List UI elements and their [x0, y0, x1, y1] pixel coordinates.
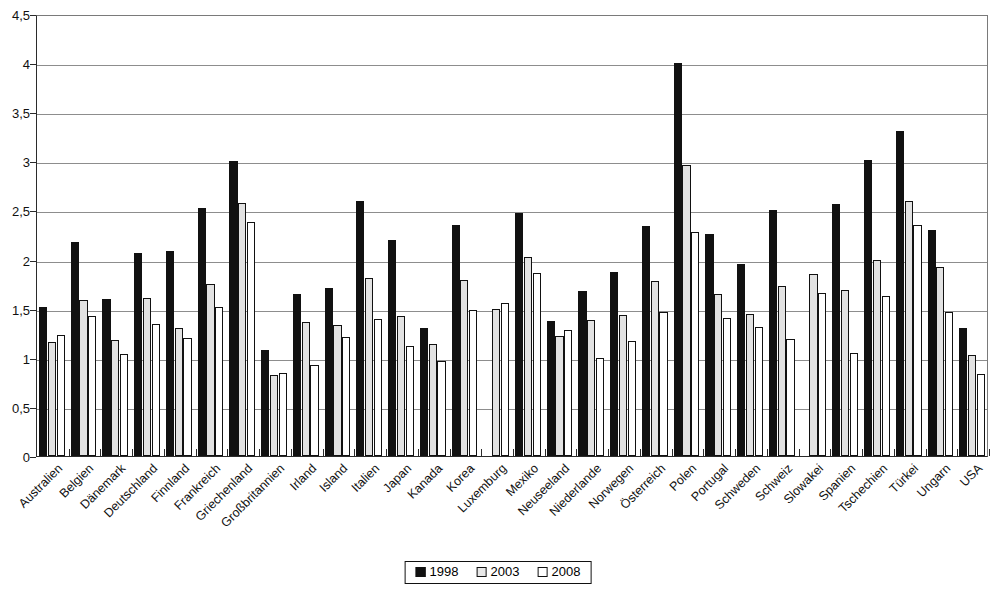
- bar: [374, 319, 382, 456]
- bar-group: [420, 16, 446, 456]
- bar-group: [483, 16, 509, 456]
- bar-group: [547, 16, 573, 456]
- bar-group: [356, 16, 382, 456]
- y-axis-tick-label: 3: [23, 156, 30, 169]
- legend-item: 1998: [416, 565, 459, 579]
- bar: [714, 294, 722, 456]
- bar: [71, 242, 79, 456]
- bar: [420, 328, 428, 456]
- y-axis-tick-label: 3,5: [12, 107, 30, 120]
- bar-group: [959, 16, 985, 456]
- y-axis-tick-label: 4,5: [12, 9, 30, 22]
- bar: [864, 160, 872, 456]
- bar-group: [102, 16, 128, 456]
- bar: [57, 335, 65, 456]
- bar: [452, 225, 460, 456]
- legend-swatch-icon: [416, 567, 426, 577]
- bar-group: [515, 16, 541, 456]
- bar-group: [293, 16, 319, 456]
- bar: [524, 257, 532, 456]
- x-axis-tick-label: Irland: [287, 462, 318, 493]
- bar: [356, 201, 364, 456]
- bar: [936, 267, 944, 456]
- bar: [705, 234, 713, 456]
- bar: [460, 280, 468, 456]
- bar: [564, 330, 572, 456]
- bar-group: [896, 16, 922, 456]
- bar: [388, 240, 396, 456]
- x-axis-labels: AustralienBelgienDänemarkDeutschlandFinn…: [0, 462, 996, 562]
- bar-group: [134, 16, 160, 456]
- legend-item: 2003: [477, 565, 520, 579]
- bar: [492, 309, 500, 456]
- bar: [578, 291, 586, 456]
- bar-group: [166, 16, 192, 456]
- bar-group: [261, 16, 287, 456]
- legend-swatch-icon: [537, 567, 547, 577]
- bar: [737, 264, 745, 456]
- bar: [515, 213, 523, 456]
- legend-label: 2003: [491, 565, 520, 579]
- bar: [723, 318, 731, 456]
- y-axis-tick-label: 1: [23, 352, 30, 365]
- bar: [437, 361, 445, 456]
- x-axis-tick-label: Australien: [16, 462, 65, 511]
- bar-group: [198, 16, 224, 456]
- plot-area: [36, 15, 988, 457]
- bar-chart: 00,511,522,533,544,5 AustralienBelgienDä…: [0, 0, 996, 592]
- x-axis-tick-label: USA: [958, 462, 985, 489]
- bar-group: [325, 16, 351, 456]
- legend-swatch-icon: [477, 567, 487, 577]
- bar: [406, 346, 414, 456]
- bar: [896, 131, 904, 456]
- bar: [397, 316, 405, 456]
- bar-group: [388, 16, 414, 456]
- bar: [39, 307, 47, 456]
- bar: [809, 274, 817, 456]
- plot-wrapper: 00,511,522,533,544,5: [0, 0, 996, 470]
- bar-group: [642, 16, 668, 456]
- bar: [166, 251, 174, 456]
- bar: [682, 165, 690, 456]
- bar: [342, 337, 350, 456]
- bar-group: [229, 16, 255, 456]
- bar-group: [864, 16, 890, 456]
- legend-label: 2008: [551, 565, 580, 579]
- bar-group: [39, 16, 65, 456]
- bar: [501, 303, 509, 456]
- y-axis-tick-label: 0,5: [12, 401, 30, 414]
- legend-label: 1998: [430, 565, 459, 579]
- bar-group: [769, 16, 795, 456]
- bar: [832, 204, 840, 456]
- bar: [547, 321, 555, 456]
- legend-item: 2008: [537, 565, 580, 579]
- y-axis-tick-label: 1,5: [12, 303, 30, 316]
- bar-group: [928, 16, 954, 456]
- bar: [674, 63, 682, 456]
- bar-group: [71, 16, 97, 456]
- bar-group: [737, 16, 763, 456]
- bar: [959, 328, 967, 456]
- y-axis-tick: [30, 457, 36, 458]
- bar: [769, 210, 777, 456]
- bar: [48, 342, 56, 456]
- bar-group: [674, 16, 700, 456]
- bar-group: [832, 16, 858, 456]
- bar: [469, 310, 477, 456]
- bar-group: [705, 16, 731, 456]
- bar: [873, 260, 881, 456]
- bar: [945, 312, 953, 456]
- bar-group: [801, 16, 827, 456]
- bar: [905, 201, 913, 456]
- bar: [238, 203, 246, 456]
- bar: [333, 325, 341, 456]
- bar-group: [610, 16, 636, 456]
- bar: [229, 161, 237, 456]
- y-axis-tick-label: 2,5: [12, 205, 30, 218]
- y-axis-tick-label: 4: [23, 58, 30, 71]
- bar: [134, 253, 142, 456]
- y-axis-tick-label: 2: [23, 254, 30, 267]
- chart-legend: 199820032008: [405, 561, 592, 584]
- bar-group: [452, 16, 478, 456]
- bar: [365, 278, 373, 456]
